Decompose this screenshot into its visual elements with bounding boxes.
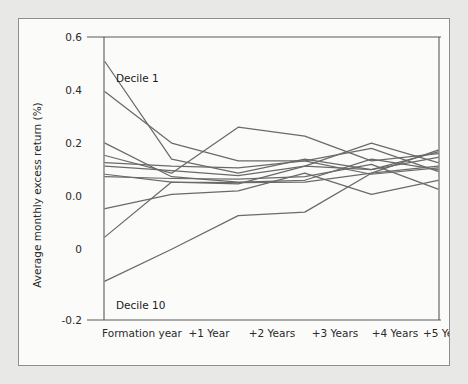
y-tick-label: 0.6 [65, 31, 82, 43]
annotation-decile-1: Decile 1 [116, 72, 159, 84]
y-tick-label: 0.2 [65, 137, 82, 149]
x-axis-tick-labels: Formation year +1 Year +2 Years +3 Years… [102, 327, 449, 339]
chart-figure: Average monthly excess return (%) 0.6 0.… [18, 18, 450, 366]
series-line [105, 166, 438, 281]
x-tick-label: +4 Years [372, 327, 419, 339]
x-tick-label: Formation year [102, 327, 182, 339]
x-tick-label: +5 Years [423, 327, 449, 339]
x-tick-label: +1 Year [188, 327, 230, 339]
y-axis-tick-labels: 0.6 0.4 0.2 0.0 0 -0.2 [62, 31, 83, 326]
y-tick-label: 0.0 [65, 190, 82, 202]
y-tick-label: 0 [75, 243, 82, 255]
annotation-decile-10: Decile 10 [116, 299, 165, 311]
line-chart: Average monthly excess return (%) 0.6 0.… [19, 19, 449, 365]
series-group [105, 62, 438, 281]
y-axis-title: Average monthly excess return (%) [31, 102, 43, 287]
x-tick-label: +3 Years [312, 327, 359, 339]
y-tick-label: 0.4 [65, 84, 82, 96]
y-tick-label: -0.2 [62, 314, 83, 326]
series-line [105, 143, 438, 182]
x-tick-label: +2 Years [249, 327, 296, 339]
